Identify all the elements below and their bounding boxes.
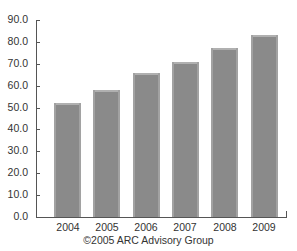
y-tick	[36, 195, 40, 196]
y-tick	[36, 42, 40, 43]
bar-2004	[54, 103, 81, 217]
bar-2007	[172, 62, 199, 217]
x-tick-label: 2006	[126, 221, 166, 233]
y-tick	[36, 173, 40, 174]
y-tick	[36, 129, 40, 130]
y-axis	[36, 20, 37, 218]
x-tick-label: 2007	[165, 221, 205, 233]
source-note: ©2005 ARC Advisory Group	[0, 234, 297, 246]
bar-2008	[211, 48, 238, 217]
y-tick	[36, 217, 40, 218]
bar-2006	[133, 73, 160, 217]
y-tick-label: 60.0	[0, 79, 28, 91]
y-tick-label: 40.0	[0, 122, 28, 134]
y-tick	[36, 64, 40, 65]
y-tick-label: 30.0	[0, 144, 28, 156]
x-tick-label: 2005	[87, 221, 127, 233]
y-tick-label: 70.0	[0, 57, 28, 69]
y-tick-label: 90.0	[0, 13, 28, 25]
y-tick-label: 80.0	[0, 35, 28, 47]
bar-2009	[251, 35, 278, 217]
bar-2005	[93, 90, 120, 217]
y-tick-label: 10.0	[0, 188, 28, 200]
bar-chart: 0.010.020.030.040.050.060.070.080.090.0 …	[0, 0, 297, 251]
y-tick	[36, 20, 40, 21]
y-tick-label: 50.0	[0, 101, 28, 113]
x-axis	[36, 217, 287, 218]
x-tick-label: 2004	[48, 221, 88, 233]
y-tick-label: 0.0	[0, 210, 28, 222]
y-tick	[36, 86, 40, 87]
x-tick-label: 2009	[244, 221, 284, 233]
x-axis-end-tick	[286, 211, 287, 218]
x-tick-label: 2008	[205, 221, 245, 233]
y-tick-label: 20.0	[0, 166, 28, 178]
y-tick	[36, 108, 40, 109]
y-tick	[36, 151, 40, 152]
